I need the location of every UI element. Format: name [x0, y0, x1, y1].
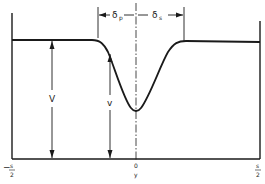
- arrowhead-down-icon: [50, 150, 55, 158]
- arrowhead-up-icon: [50, 41, 55, 49]
- delta-right-label: δ: [152, 10, 158, 20]
- arrowhead-up-icon: [108, 54, 113, 62]
- arrowhead-right-icon: [176, 13, 183, 18]
- delta-left-subscript: p: [119, 14, 123, 22]
- right-edge-numerator: s: [256, 162, 259, 169]
- left-edge-numerator: s: [10, 162, 13, 169]
- center-y-label: y: [134, 171, 138, 179]
- delta-right-subscript: s: [159, 14, 162, 21]
- right-edge-denominator: 2: [256, 171, 260, 178]
- inner-height-label: v: [107, 98, 113, 108]
- delta-left-label: δ: [112, 10, 118, 20]
- delta-brackets: [98, 7, 184, 41]
- arrowhead-left-icon: [99, 13, 106, 18]
- arrowhead-down-icon: [108, 150, 113, 158]
- left-edge-denominator: 2: [10, 171, 14, 178]
- outer-height-label: V: [49, 94, 56, 104]
- dip-profile-diagram: δ p δ s V v − s 2 0 y s 2: [0, 0, 265, 184]
- center-zero-label: 0: [134, 162, 138, 169]
